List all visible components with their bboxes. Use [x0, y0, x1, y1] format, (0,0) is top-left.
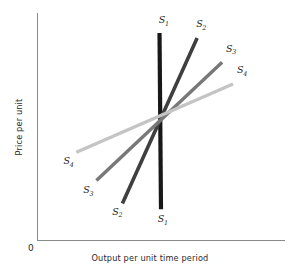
- supply-curves-group: [76, 33, 233, 209]
- curve-label-s3-top: S3: [226, 43, 236, 57]
- curve-label-s4-bottom: S4: [63, 155, 73, 169]
- x-axis-title: Output per unit time period: [92, 253, 209, 263]
- curve-label-s3-bottom: S3: [83, 184, 93, 198]
- curve-label-subscript: 1: [165, 20, 169, 28]
- curve-labels-group: S1S1S2S2S3S3S4S4: [63, 14, 247, 227]
- curve-label-subscript: 3: [89, 190, 93, 198]
- supply-curve-figure: S1S1S2S2S3S3S4S4 0 Output per unit time …: [0, 0, 296, 267]
- curve-label-subscript: 4: [242, 70, 247, 78]
- supply-curve-s4: [76, 84, 233, 152]
- curve-label-s2-top: S2: [196, 18, 206, 32]
- curve-label-s1-top: S1: [159, 14, 169, 28]
- curve-label-subscript: 2: [201, 24, 206, 32]
- curve-label-s1-bottom: S1: [158, 213, 168, 227]
- origin-label: 0: [28, 243, 34, 253]
- curve-label-s4-top: S4: [237, 64, 247, 78]
- curve-label-subscript: 4: [69, 161, 74, 169]
- curve-label-subscript: 1: [164, 219, 168, 227]
- y-axis-title: Price per unit: [14, 98, 24, 155]
- curve-label-subscript: 3: [232, 48, 236, 56]
- curve-label-subscript: 2: [117, 211, 122, 219]
- chart-canvas: S1S1S2S2S3S3S4S4 0 Output per unit time …: [0, 0, 296, 267]
- curve-label-s2-bottom: S2: [112, 206, 122, 220]
